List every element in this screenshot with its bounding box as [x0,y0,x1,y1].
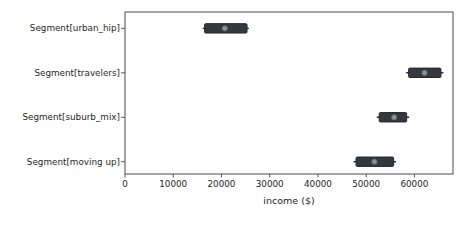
median-dot [422,70,427,75]
x-axis-tick-label: 60000 [400,179,428,189]
y-axis-category-label: Segment[suburb_mix] [22,112,120,122]
x-axis-tick-label: 0 [122,179,128,189]
plot-border [125,12,453,174]
boxplot-figure: 0100002000030000400005000060000Segment[u… [0,0,473,226]
x-axis-tick-label: 10000 [159,179,187,189]
median-dot [392,115,397,120]
y-axis-category-label: Segment[moving up] [27,157,120,167]
x-axis-tick-label: 20000 [207,179,235,189]
median-dot [372,159,377,164]
median-dot [222,26,227,31]
income-by-segment-boxplot: 0100002000030000400005000060000Segment[u… [0,0,473,226]
y-axis-category-label: Segment[travelers] [34,68,120,78]
x-axis-label: income ($) [263,195,314,206]
y-axis-category-label: Segment[urban_hip] [30,23,120,33]
x-axis-tick-label: 40000 [304,179,332,189]
x-axis-tick-label: 50000 [352,179,380,189]
x-axis-tick-label: 30000 [256,179,284,189]
